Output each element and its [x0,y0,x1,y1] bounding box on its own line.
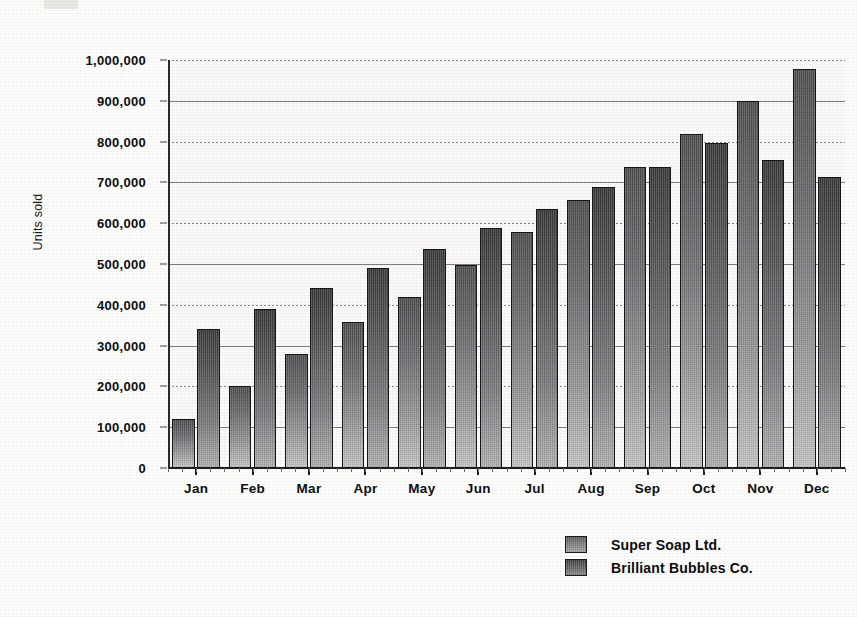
bar-group [507,60,563,468]
legend-item[interactable]: Brilliant Bubbles Co. [565,556,753,579]
bar-apr-series2[interactable] [367,268,390,468]
x-axis-minor-tick [549,468,550,472]
legend-label: Brilliant Bubbles Co. [611,560,753,576]
bar-jun-series1[interactable] [455,265,478,468]
bar-group [676,60,732,468]
bar-group [619,60,675,468]
legend-item[interactable]: Super Soap Ltd. [565,533,753,556]
x-axis-label-aug: Aug [578,481,605,496]
bar-nov-series1[interactable] [737,101,760,468]
x-axis-minor-tick [732,468,733,472]
bar-sep-series2[interactable] [649,167,672,468]
x-axis-minor-tick [591,468,592,472]
y-axis-tick-label: 200,000 [97,379,146,394]
x-axis-minor-tick [492,468,493,472]
y-axis-tick-label: 700,000 [97,175,146,190]
bar-may-series2[interactable] [423,249,446,468]
bar-mar-series2[interactable] [310,288,333,468]
x-axis-label-apr: Apr [353,481,377,496]
x-axis-minor-tick [521,468,522,472]
x-axis-minor-tick [295,468,296,472]
x-axis-minor-tick [408,468,409,472]
x-axis-minor-tick [817,468,818,472]
bar-feb-series1[interactable] [229,386,252,468]
x-axis-minor-tick [746,468,747,472]
bar-jan-series1[interactable] [172,419,195,468]
bar-jul-series2[interactable] [536,209,559,468]
y-axis-tick-mark [160,427,167,428]
bar-oct-series2[interactable] [705,143,728,468]
x-axis-minor-tick [210,468,211,472]
x-axis-label-nov: Nov [747,481,773,496]
y-axis-tick-mark [160,141,167,142]
x-axis-minor-tick [676,468,677,472]
y-axis-tick-mark [160,182,167,183]
x-axis-label-jun: Jun [466,481,491,496]
bar-sep-series1[interactable] [624,167,647,468]
chart-page: Units sold 0100,000200,000300,000400,000… [0,0,857,617]
x-axis-label-feb: Feb [240,481,265,496]
bar-jun-series2[interactable] [480,228,503,468]
x-axis-minor-tick [605,468,606,472]
bar-group [337,60,393,468]
plot-area [168,60,845,468]
y-axis-tick-label: 100,000 [97,420,146,435]
x-axis-minor-tick [577,468,578,472]
bar-jul-series1[interactable] [511,232,534,468]
bar-dec-series2[interactable] [818,177,841,468]
y-axis-line [168,60,170,468]
y-axis-tick-mark [160,264,167,265]
x-axis-label-jan: Jan [184,481,208,496]
x-axis: JanFebMarAprMayJunJulAugSepOctNovDec [168,468,845,508]
x-axis-minor-tick [380,468,381,472]
x-axis-label-may: May [408,481,435,496]
legend-label: Super Soap Ltd. [611,537,721,553]
y-axis-tick-label: 900,000 [97,93,146,108]
bar-jan-series2[interactable] [197,329,220,468]
x-axis-minor-tick [789,468,790,472]
y-axis-tick-label: 0 [138,461,146,476]
x-axis-minor-tick [690,468,691,472]
y-axis-tick-label: 400,000 [97,297,146,312]
x-axis-minor-tick [563,468,564,472]
x-axis-minor-tick [633,468,634,472]
series-1-swatch [565,536,587,553]
x-axis-minor-tick [450,468,451,472]
x-axis-minor-tick [309,468,310,472]
x-axis-minor-tick [845,468,846,472]
bar-mar-series1[interactable] [285,354,308,468]
y-axis-tick-mark [160,345,167,346]
x-axis-label-mar: Mar [297,481,322,496]
bar-aug-series2[interactable] [592,187,615,468]
x-axis-minor-tick [253,468,254,472]
x-axis-minor-tick [704,468,705,472]
bar-feb-series2[interactable] [254,309,277,468]
bar-may-series1[interactable] [398,297,421,468]
bar-group [789,60,845,468]
x-axis-minor-tick [337,468,338,472]
bar-aug-series1[interactable] [567,200,590,468]
x-axis-minor-tick [831,468,832,472]
x-axis-label-dec: Dec [804,481,830,496]
bar-group [732,60,788,468]
bar-dec-series1[interactable] [793,69,816,468]
x-axis-minor-tick [422,468,423,472]
x-axis-label-jul: Jul [525,481,545,496]
y-axis-tick-label: 800,000 [97,134,146,149]
bar-oct-series1[interactable] [680,134,703,468]
x-axis-minor-tick [648,468,649,472]
bar-apr-series1[interactable] [342,322,365,468]
x-axis-minor-tick [535,468,536,472]
bar-nov-series2[interactable] [762,160,785,468]
x-axis-minor-tick [239,468,240,472]
x-axis-minor-tick [196,468,197,472]
x-axis-minor-tick [803,468,804,472]
y-axis-tick-labels: 0100,000200,000300,000400,000500,000600,… [0,60,160,468]
y-axis-tick-label: 1,000,000 [85,53,146,68]
x-axis-minor-tick [394,468,395,472]
x-axis-minor-tick [351,468,352,472]
x-axis-minor-tick [436,468,437,472]
x-axis-minor-tick [662,468,663,472]
x-axis-label-sep: Sep [635,481,661,496]
y-axis-tick-mark [160,386,167,387]
